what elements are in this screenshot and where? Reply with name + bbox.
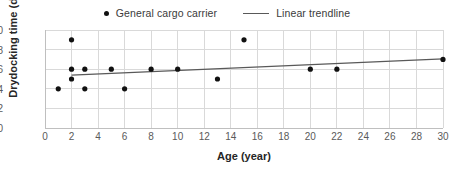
x-tick-label: 2 [57,131,87,142]
x-tick-label: 26 [375,131,405,142]
x-tick-label: 24 [348,131,378,142]
x-tick-label: 4 [83,131,113,142]
x-tick-label: 8 [136,131,166,142]
data-point [308,67,313,72]
y-tick-label: 0 [0,123,3,134]
data-point [175,67,180,72]
x-tick-label: 16 [242,131,272,142]
data-point [69,67,74,72]
data-point [82,67,87,72]
data-point [82,86,87,91]
chart-figure: General cargo carrier Linear trendline D… [0,0,454,171]
data-point [241,37,246,42]
y-tick-label: 8 [0,44,3,55]
x-tick-label: 6 [110,131,140,142]
data-point [215,76,220,81]
data-point [122,86,127,91]
plot-area [45,30,443,128]
data-point [440,57,445,62]
y-tick-label: 2 [0,103,3,114]
x-tick-label: 0 [30,131,60,142]
x-tick-label: 10 [163,131,193,142]
x-tick-label: 30 [428,131,454,142]
data-point [149,67,154,72]
y-tick-label: 10 [0,25,3,36]
x-tick-label: 28 [401,131,431,142]
data-point [56,86,61,91]
x-tick-label: 14 [216,131,246,142]
data-point [334,67,339,72]
data-point [69,76,74,81]
x-tick-label: 18 [269,131,299,142]
data-point [69,37,74,42]
x-tick-label: 20 [295,131,325,142]
y-tick-label: 4 [0,83,3,94]
x-tick-label: 12 [189,131,219,142]
x-tick-label: 22 [322,131,352,142]
data-point [109,67,114,72]
plot-canvas [45,30,443,128]
y-tick-label: 6 [0,64,3,75]
